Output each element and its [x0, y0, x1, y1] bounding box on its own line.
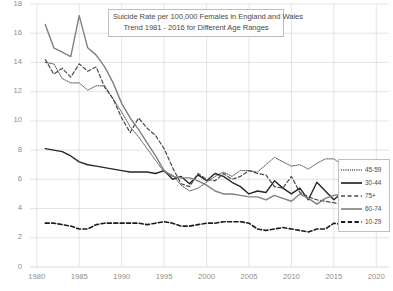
legend-swatch-30-44-icon — [341, 179, 362, 187]
chart-title: Suicide Rate per 100,000 Females in Engl… — [113, 12, 279, 23]
x-tick-label: 1995 — [147, 272, 181, 281]
x-tick-label: 2005 — [232, 272, 266, 281]
legend-label-45-59: 45-59 — [365, 166, 381, 174]
legend-swatch-75-plus-icon — [341, 192, 362, 200]
legend-item-10-29[interactable]: 10-29 — [341, 215, 387, 228]
series-line-10-29 — [45, 222, 342, 232]
x-tick-label: 1990 — [105, 272, 139, 281]
legend-item-75-plus[interactable]: 75+ — [341, 189, 387, 202]
y-tick-label: 16 — [2, 28, 22, 37]
legend-swatch-60-74-icon — [341, 205, 362, 213]
chart-subtitle: Trend 1981 - 2016 for Different Age Rang… — [113, 23, 279, 34]
x-tick-label: 1985 — [62, 272, 96, 281]
legend-label-30-44: 30-44 — [365, 179, 381, 187]
cropped-header-strip — [0, 0, 393, 4]
y-tick-label: 4 — [2, 203, 22, 212]
series-line-60-74 — [45, 16, 342, 204]
y-tick-label: 6 — [2, 174, 22, 183]
x-tick-label: 2000 — [190, 272, 224, 281]
chart-title-box: Suicide Rate per 100,000 Females in Engl… — [108, 9, 284, 37]
legend-label-60-74: 60-74 — [365, 205, 381, 213]
series-group — [45, 16, 342, 232]
x-tick-label: 2010 — [274, 272, 308, 281]
y-tick-label: 0 — [2, 262, 22, 271]
legend-swatch-10-29-icon — [341, 218, 362, 226]
gridlines-group — [30, 4, 389, 267]
chart-plot-area — [0, 0, 393, 291]
series-line-75+ — [45, 60, 342, 205]
x-tick-label: 2020 — [359, 272, 393, 281]
series-line-30-44 — [45, 149, 342, 200]
series-line-45-59 — [45, 62, 342, 191]
legend-item-45-59[interactable]: 45-59 — [341, 163, 387, 176]
y-tick-label: 10 — [2, 115, 22, 124]
legend-label-10-29: 10-29 — [365, 218, 381, 226]
legend-item-60-74[interactable]: 60-74 — [341, 202, 387, 215]
x-tick-label: 2015 — [317, 272, 351, 281]
legend-swatch-45-59-icon — [341, 166, 362, 174]
chart-legend: 45-59 30-44 75+ 60-74 10-29 — [338, 159, 390, 232]
legend-label-75-plus: 75+ — [365, 192, 376, 200]
y-tick-label: 12 — [2, 86, 22, 95]
chart-container: Suicide Rate per 100,000 Females in Engl… — [0, 0, 393, 291]
y-tick-label: 2 — [2, 232, 22, 241]
y-tick-label: 14 — [2, 57, 22, 66]
x-tick-label: 1980 — [20, 272, 54, 281]
y-tick-label: 8 — [2, 145, 22, 154]
legend-item-30-44[interactable]: 30-44 — [341, 176, 387, 189]
